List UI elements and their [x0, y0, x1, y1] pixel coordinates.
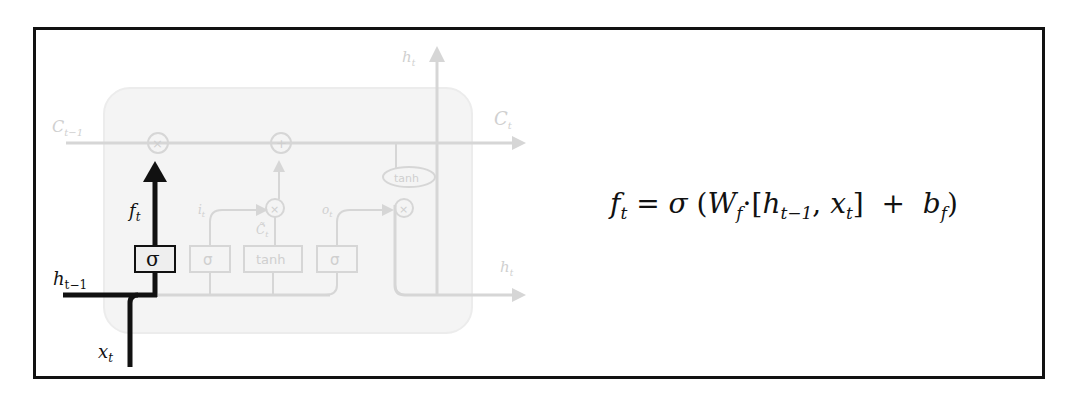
eq-open-paren: (	[697, 187, 708, 220]
eq-h: h	[762, 187, 780, 220]
eq-bias: b	[923, 187, 941, 220]
cell-state-in-label: Ct−1	[52, 117, 83, 138]
input-multiply-symbol: ×	[270, 203, 279, 216]
tanh-op-label: tanh	[394, 172, 419, 185]
candidate-gate-symbol: tanh	[256, 252, 286, 267]
eq-x: x	[830, 187, 846, 220]
forget-gate-symbol: σ	[146, 247, 160, 271]
input-gate-symbol: σ	[203, 251, 213, 269]
eq-sigma: σ	[669, 187, 688, 220]
forget-gate-equation: ft = σ (Wf·[ht−1, xt] + bf)	[610, 187, 958, 223]
eq-close-paren: )	[947, 187, 958, 220]
eq-h-sub: t−1	[780, 203, 812, 223]
eq-x-sub: t	[846, 203, 853, 223]
cell-state-arrowhead	[512, 136, 526, 150]
add-symbol: +	[276, 136, 287, 151]
eq-plus: +	[882, 187, 905, 220]
hidden-out-right-label: ht	[500, 258, 514, 278]
eq-lhs: f	[610, 187, 620, 220]
output-multiply-symbol: ×	[399, 203, 408, 216]
hidden-prev-label: ht−1	[53, 268, 87, 292]
forget-multiply-symbol: ×	[152, 136, 163, 151]
eq-weight: W	[707, 187, 736, 220]
eq-close-bracket: ]	[853, 187, 864, 220]
hidden-out-top-label: ht	[402, 48, 416, 68]
eq-lhs-sub: t	[620, 203, 627, 223]
hidden-out-top-arrowhead	[429, 46, 445, 62]
eq-equals: =	[636, 187, 659, 220]
input-label: xt	[98, 341, 113, 365]
cell-state-out-label: Ct	[494, 108, 513, 131]
eq-open-bracket: [	[751, 187, 762, 220]
hidden-out-arrowhead	[512, 288, 526, 302]
output-gate-symbol: σ	[330, 251, 340, 269]
eq-comma: ,	[812, 187, 821, 220]
